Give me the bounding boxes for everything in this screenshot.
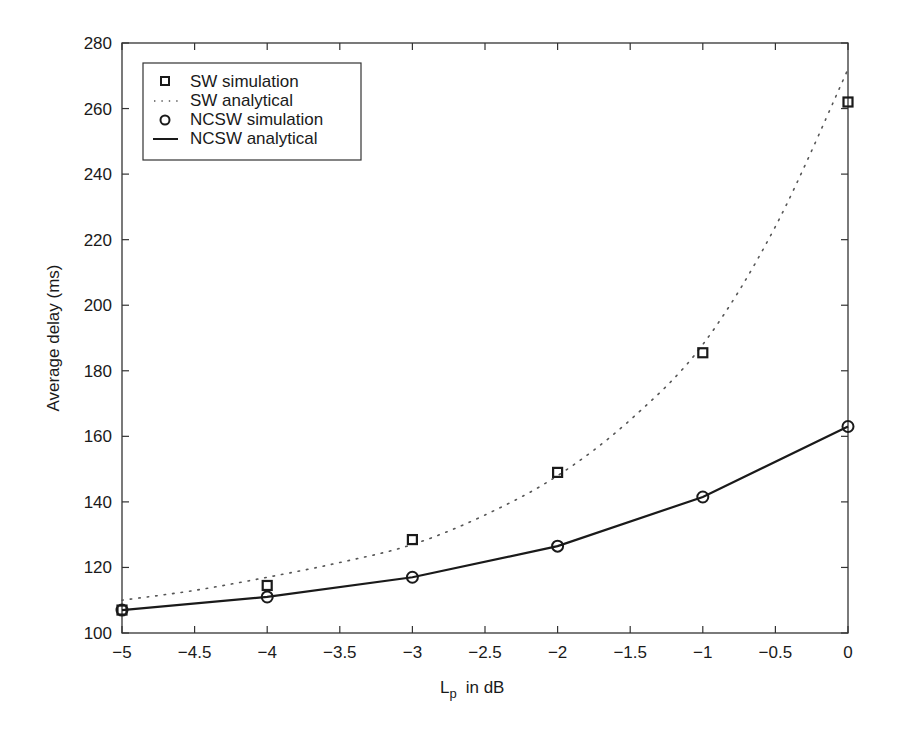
x-tick-label: 0 <box>843 643 852 662</box>
x-tick-label: −3.5 <box>323 643 357 662</box>
sw-simulation-point <box>408 535 417 544</box>
y-axis-label: Average delay (ms) <box>44 264 63 411</box>
y-tick-label: 280 <box>84 34 112 53</box>
legend-label-ncsw-simulation: NCSW simulation <box>190 110 323 129</box>
x-tick-label: −0.5 <box>759 643 793 662</box>
x-tick-label: −2 <box>548 643 567 662</box>
x-tick-label: −3 <box>403 643 422 662</box>
line-chart: −5−4.5−4−3.5−3−2.5−2−1.5−1−0.50100120140… <box>0 0 899 733</box>
y-tick-label: 140 <box>84 493 112 512</box>
y-tick-label: 160 <box>84 427 112 446</box>
x-tick-label: −2.5 <box>468 643 502 662</box>
x-tick-label: −1 <box>693 643 712 662</box>
x-tick-label: −5 <box>112 643 131 662</box>
y-tick-label: 260 <box>84 100 112 119</box>
x-axis-label-rest: in dB <box>466 678 505 697</box>
x-axis-label-sub: p <box>449 686 456 701</box>
ncsw-analytical-line <box>122 427 848 611</box>
y-tick-label: 240 <box>84 165 112 184</box>
legend: SW simulation SW analytical NCSW simulat… <box>143 63 361 160</box>
legend-label-sw-simulation: SW simulation <box>190 72 299 91</box>
x-tick-label: −4.5 <box>178 643 212 662</box>
sw-simulation-point <box>553 468 562 477</box>
x-tick-label: −4 <box>258 643 277 662</box>
x-tick-label: −1.5 <box>613 643 647 662</box>
x-axis-label-main: L <box>440 678 449 697</box>
sw-simulation-point <box>263 581 272 590</box>
y-tick-label: 180 <box>84 362 112 381</box>
legend-label-ncsw-analytical: NCSW analytical <box>190 129 318 148</box>
y-tick-label: 120 <box>84 558 112 577</box>
y-tick-label: 100 <box>84 624 112 643</box>
y-tick-label: 200 <box>84 296 112 315</box>
legend-label-sw-analytical: SW analytical <box>190 91 293 110</box>
x-axis-label: Lpin dB <box>440 678 504 701</box>
y-tick-label: 220 <box>84 231 112 250</box>
